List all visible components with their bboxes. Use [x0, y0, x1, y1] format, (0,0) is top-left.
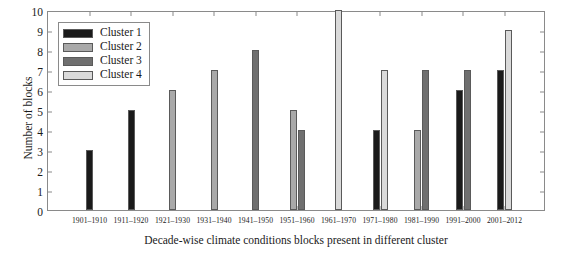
y-tick-label: 6 — [37, 86, 43, 98]
bar — [86, 150, 93, 210]
bar — [298, 130, 305, 210]
bar — [422, 70, 429, 210]
x-tick-label: 2001–2012 — [487, 216, 522, 225]
legend-item: Cluster 1 — [63, 26, 142, 40]
bar — [464, 70, 471, 210]
y-axis-title: Number of blocks — [22, 38, 34, 198]
legend-label: Cluster 3 — [100, 55, 142, 67]
x-tick-label: 1901–1910 — [72, 216, 107, 225]
legend-swatch — [63, 43, 93, 52]
legend-label: Cluster 4 — [100, 69, 142, 81]
bar-chart-figure: Number of blocks 012345678910 1901–19101… — [0, 0, 566, 265]
y-tick-label: 5 — [37, 106, 43, 118]
legend-label: Cluster 2 — [100, 41, 142, 53]
bar — [373, 130, 380, 210]
y-tick-label: 8 — [37, 46, 43, 58]
x-tick-label: 1931–1940 — [196, 216, 231, 225]
y-tick-label: 9 — [37, 26, 43, 38]
x-tick-label: 1921–1930 — [155, 216, 190, 225]
bar — [414, 130, 421, 210]
bar — [505, 30, 512, 210]
legend-item: Cluster 3 — [63, 54, 142, 68]
legend-swatch — [63, 29, 93, 38]
x-tick-label: 1951–1960 — [279, 216, 314, 225]
y-tick-label: 2 — [37, 166, 43, 178]
legend-swatch — [63, 57, 93, 66]
bar — [169, 90, 176, 210]
y-tick-label: 0 — [37, 206, 43, 218]
y-tick-label: 10 — [32, 6, 44, 18]
bar — [252, 50, 259, 210]
y-tick-label: 3 — [37, 146, 43, 158]
legend-label: Cluster 1 — [100, 27, 142, 39]
x-tick-label: 1911–1920 — [114, 216, 149, 225]
bar — [381, 70, 388, 210]
x-tick-label: 1941–1950 — [238, 216, 273, 225]
bar — [497, 70, 504, 210]
legend-item: Cluster 2 — [63, 40, 142, 54]
x-tick-label: 1961–1970 — [321, 216, 356, 225]
bar — [335, 10, 342, 210]
bar — [456, 90, 463, 210]
y-tick-label: 4 — [37, 126, 43, 138]
bar — [128, 110, 135, 210]
x-tick-label: 1971–1980 — [362, 216, 397, 225]
x-tick-label: 1981–1990 — [404, 216, 439, 225]
x-axis-title: Decade-wise climate conditions blocks pr… — [47, 234, 545, 246]
plot-area: 012345678910 1901–19101911–19201921–1930… — [47, 11, 545, 211]
chart-legend: Cluster 1Cluster 2Cluster 3Cluster 4 — [58, 22, 150, 86]
legend-item: Cluster 4 — [63, 68, 142, 82]
y-tick-label: 1 — [37, 186, 43, 198]
legend-swatch — [63, 71, 93, 80]
bar — [211, 70, 218, 210]
bar — [290, 110, 297, 210]
x-tick-label: 1991–2000 — [445, 216, 480, 225]
y-tick-label: 7 — [37, 66, 43, 78]
